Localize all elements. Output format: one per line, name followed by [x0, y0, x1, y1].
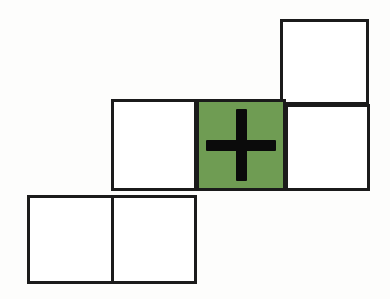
- grid-cell-cell-r2-c2[interactable]: [111, 99, 197, 191]
- grid-canvas: Staircase arrangement of six outlined sq…: [0, 0, 390, 299]
- grid-cell-cell-r1-c4[interactable]: [280, 19, 369, 105]
- canvas-description: Staircase arrangement of six outlined sq…: [0, 0, 1, 1]
- grid-cell-cell-r2-c4[interactable]: [285, 104, 370, 191]
- grid-cell-cell-r3-c2[interactable]: [111, 195, 197, 284]
- grid-cell-cell-r2-c3[interactable]: [196, 99, 286, 191]
- plus-icon-vertical-bar: [236, 109, 247, 181]
- grid-cell-cell-r3-c1[interactable]: [27, 195, 115, 284]
- plus-icon: [199, 102, 283, 188]
- plus-icon-horizontal-bar: [206, 140, 277, 151]
